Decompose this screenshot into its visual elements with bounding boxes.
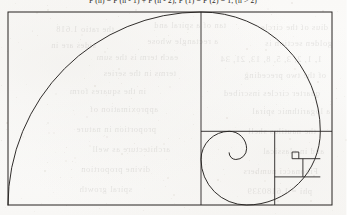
figure-frame	[8, 12, 332, 205]
square-dividers	[201, 12, 332, 205]
golden-spiral-curve	[8, 12, 320, 205]
